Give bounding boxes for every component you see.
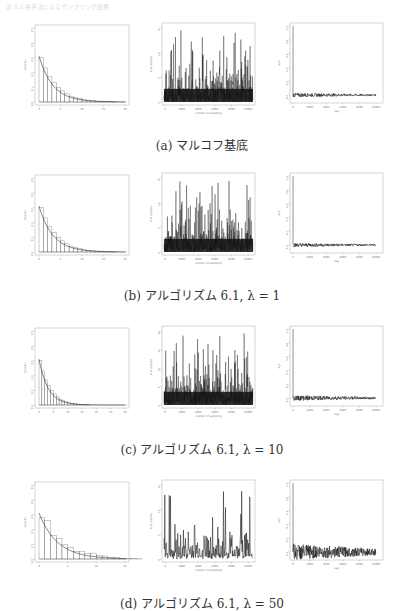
svg-text:# of statistic: # of statistic	[150, 205, 153, 222]
svg-text:6000: 6000	[339, 409, 346, 412]
svg-text:Density: Density	[24, 210, 27, 220]
svg-text:0.4: 0.4	[31, 42, 34, 46]
svg-text:1.0: 1.0	[286, 329, 289, 333]
svg-text:10000: 10000	[372, 256, 381, 259]
svg-text:15: 15	[102, 108, 106, 111]
svg-text:0.2: 0.2	[31, 529, 34, 533]
svg-text:0: 0	[38, 108, 40, 111]
svg-text:0: 0	[164, 258, 166, 261]
svg-text:10000: 10000	[372, 563, 381, 566]
svg-text:0.0: 0.0	[286, 552, 289, 556]
svg-text:25: 25	[109, 411, 113, 414]
svg-text:0.0: 0.0	[31, 102, 34, 106]
svg-text:1.0: 1.0	[286, 26, 289, 30]
svg-text:10: 10	[80, 258, 84, 261]
histogram-plot: 0.00.10.20.30.40.5Density05101520	[22, 169, 134, 269]
svg-text:8000: 8000	[356, 409, 363, 412]
svg-text:4000: 4000	[323, 409, 330, 412]
svg-text:6000: 6000	[339, 256, 346, 259]
svg-text:number of sampling: number of sampling	[195, 569, 221, 572]
svg-text:2000: 2000	[178, 258, 185, 261]
svg-text:0: 0	[292, 409, 294, 412]
svg-text:15: 15	[158, 485, 161, 489]
svg-text:Lag: Lag	[334, 110, 339, 113]
header-faint-text: 表 6.1 各手法によるサンプリング結果	[6, 2, 109, 11]
svg-text:2000: 2000	[178, 411, 185, 414]
svg-text:10: 10	[158, 52, 161, 56]
svg-text:0.4: 0.4	[286, 217, 289, 221]
svg-text:number of sampling: number of sampling	[195, 262, 221, 265]
figure-caption-b: (b) アルゴリズム 6.1, λ = 1	[0, 286, 404, 303]
svg-text:8000: 8000	[356, 256, 363, 259]
svg-text:1.0: 1.0	[286, 483, 289, 487]
svg-text:2000: 2000	[306, 563, 313, 566]
svg-text:0.2: 0.2	[286, 81, 289, 85]
svg-text:0.1: 0.1	[31, 390, 34, 394]
svg-text:5: 5	[158, 534, 161, 536]
svg-text:0.2: 0.2	[286, 384, 289, 388]
svg-text:5: 5	[158, 386, 161, 388]
svg-text:0.3: 0.3	[31, 360, 34, 364]
svg-text:5: 5	[158, 227, 161, 229]
svg-text:0: 0	[164, 108, 166, 111]
svg-text:0.1: 0.1	[31, 87, 34, 91]
svg-text:6000: 6000	[211, 258, 218, 261]
svg-text:0.6: 0.6	[286, 510, 289, 514]
svg-text:0: 0	[164, 565, 166, 568]
svg-text:8000: 8000	[228, 258, 235, 261]
svg-text:Lag: Lag	[334, 567, 339, 570]
svg-text:10000: 10000	[244, 565, 253, 568]
svg-text:20: 20	[123, 108, 127, 111]
svg-text:0.5: 0.5	[31, 178, 34, 182]
svg-text:4000: 4000	[195, 565, 202, 568]
svg-text:8000: 8000	[228, 565, 235, 568]
svg-text:10000: 10000	[372, 409, 381, 412]
svg-text:0.4: 0.4	[286, 67, 289, 71]
svg-text:6000: 6000	[211, 565, 218, 568]
svg-text:15: 15	[123, 565, 127, 568]
svg-text:0.8: 0.8	[286, 39, 289, 43]
svg-text:15: 15	[102, 258, 106, 261]
svg-text:4000: 4000	[323, 563, 330, 566]
svg-text:ACF: ACF	[278, 517, 281, 523]
svg-text:0: 0	[38, 258, 40, 261]
svg-text:0: 0	[38, 411, 40, 414]
svg-text:ACF: ACF	[278, 210, 281, 216]
svg-text:8000: 8000	[228, 108, 235, 111]
svg-text:0: 0	[158, 252, 161, 254]
svg-text:0.4: 0.4	[286, 370, 289, 374]
svg-text:0.8: 0.8	[286, 189, 289, 193]
svg-text:0: 0	[292, 106, 294, 109]
svg-text:10: 10	[158, 368, 161, 372]
svg-text:0.0: 0.0	[31, 559, 34, 563]
svg-text:0.8: 0.8	[286, 342, 289, 346]
svg-text:Density: Density	[24, 363, 27, 373]
svg-text:0.2: 0.2	[286, 231, 289, 235]
svg-text:0: 0	[292, 563, 294, 566]
svg-text:0: 0	[164, 411, 166, 414]
svg-text:0: 0	[38, 565, 40, 568]
svg-text:# of statistic: # of statistic	[150, 512, 153, 529]
svg-text:2000: 2000	[306, 409, 313, 412]
trace-plot: # of statisticnumber of sampling05101502…	[148, 169, 260, 269]
svg-text:0.6: 0.6	[286, 53, 289, 57]
svg-text:0.4: 0.4	[286, 524, 289, 528]
svg-text:0.2: 0.2	[286, 538, 289, 542]
svg-text:0.4: 0.4	[31, 345, 34, 349]
svg-text:Lag: Lag	[334, 260, 339, 263]
svg-text:30: 30	[123, 411, 127, 414]
svg-text:6000: 6000	[211, 108, 218, 111]
svg-text:0.4: 0.4	[31, 499, 34, 503]
svg-text:2000: 2000	[306, 106, 313, 109]
svg-text:10000: 10000	[244, 258, 253, 261]
trace-plot: # of statisticnumber of sampling05101520…	[148, 322, 260, 422]
svg-text:0.3: 0.3	[31, 57, 34, 61]
svg-text:1.0: 1.0	[286, 176, 289, 180]
svg-text:0.2: 0.2	[31, 222, 34, 226]
acf-plot: ACFLag0.00.20.40.60.81.00200040006000800…	[276, 322, 388, 422]
svg-text:0: 0	[158, 405, 161, 407]
svg-text:0.1: 0.1	[31, 237, 34, 241]
svg-text:0: 0	[158, 559, 161, 561]
svg-text:0.2: 0.2	[31, 375, 34, 379]
svg-text:4000: 4000	[195, 108, 202, 111]
